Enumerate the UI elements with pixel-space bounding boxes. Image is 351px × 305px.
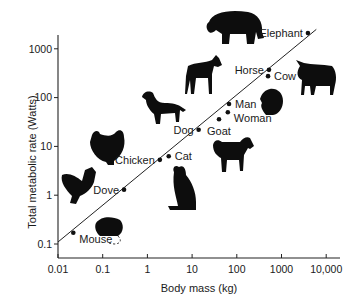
dog-silhouette-icon (142, 92, 186, 124)
point-label-chicken: Chicken (115, 154, 155, 166)
x-tick-label: 100 (228, 263, 246, 275)
point-label-dove: Dove (93, 184, 119, 196)
x-tick-label: 1000 (270, 263, 294, 275)
data-point-chicken (158, 158, 163, 163)
point-label-elephant: Elephant (259, 27, 302, 39)
x-tick-label: 0.1 (95, 263, 110, 275)
elephant-silhouette-icon (207, 11, 264, 44)
point-label-woman: Woman (234, 112, 272, 124)
x-axis-label: Body mass (kg) (161, 282, 237, 294)
point-label-dog: Dog (173, 124, 193, 136)
x-tick-label: 10,000 (310, 263, 342, 275)
point-label-mouse: Mouse (79, 233, 112, 245)
data-point-mouse (71, 230, 76, 235)
point-label-man: Man (235, 98, 256, 110)
dove-silhouette-icon (62, 167, 96, 204)
data-point-dog (196, 127, 201, 132)
y-tick-label: 10 (40, 140, 52, 152)
cat-silhouette-icon (168, 166, 196, 210)
point-label-cow: Cow (274, 70, 296, 82)
data-point-horse (267, 68, 272, 73)
data-point-man (227, 102, 232, 107)
chart: 0.010.1110100100010,0000.11101001000 Mou… (0, 0, 351, 305)
x-tick-label: 10 (186, 263, 198, 275)
cow-silhouette-icon (296, 60, 336, 95)
data-point-woman (226, 110, 231, 115)
point-label-goat: Goat (207, 125, 231, 137)
point-label-horse: Horse (235, 64, 264, 76)
y-tick-label: 1000 (29, 43, 53, 55)
y-tick-label: 0.1 (37, 238, 52, 250)
human-head-silhouette-icon (260, 89, 283, 115)
goat-silhouette-icon (213, 137, 254, 172)
x-tick-label: 0.01 (48, 263, 69, 275)
y-tick-label: 1 (46, 189, 52, 201)
point-label-cat: Cat (175, 150, 192, 162)
horse-silhouette-icon (185, 55, 222, 94)
data-point-cow (266, 74, 271, 79)
data-point-cat (166, 154, 171, 159)
data-point-elephant (306, 31, 311, 36)
data-point-dove (122, 187, 127, 192)
x-tick-label: 1 (144, 263, 150, 275)
y-axis-label: Total metabolic rate (Watts) (26, 95, 38, 228)
data-point-goat (217, 117, 222, 122)
